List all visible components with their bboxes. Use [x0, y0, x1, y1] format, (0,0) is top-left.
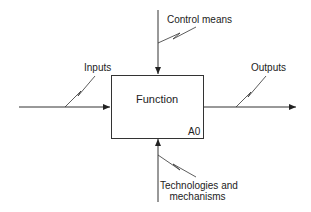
idef0-diagram — [0, 0, 311, 212]
control-label: Control means — [167, 14, 232, 25]
control-label-leader — [158, 27, 196, 43]
mechanism-label: Technologies and mechanisms — [160, 180, 235, 202]
mechanism-label-leader — [158, 155, 196, 177]
output-label: Outputs — [251, 62, 286, 73]
mechanism-label-line1: Technologies and — [160, 180, 235, 191]
mechanism-label-line2: mechanisms — [160, 191, 235, 202]
function-node-id: A0 — [188, 126, 200, 137]
function-title: Function — [136, 93, 178, 105]
output-label-leader — [236, 76, 266, 107]
input-label: Inputs — [84, 62, 111, 73]
input-label-leader — [65, 76, 95, 107]
